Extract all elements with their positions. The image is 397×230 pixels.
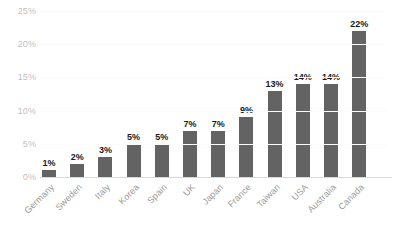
gridline xyxy=(40,144,389,145)
bar-uk[interactable]: 7% xyxy=(183,131,197,177)
y-tick-label: 10% xyxy=(18,106,36,116)
y-axis: 0%5%10%15%20%25% xyxy=(0,0,40,178)
bar-rect xyxy=(127,144,141,177)
bar-rect xyxy=(183,131,197,177)
bar-sweden[interactable]: 2% xyxy=(70,164,84,177)
bar-japan[interactable]: 7% xyxy=(211,131,225,177)
x-tick-label-canada: Canada xyxy=(336,182,366,212)
y-tick-label: 25% xyxy=(18,6,36,16)
x-tick-label-korea: Korea xyxy=(116,182,140,206)
bar-germany[interactable]: 1% xyxy=(42,170,56,177)
bar-value-label: 22% xyxy=(350,19,368,29)
bar-korea[interactable]: 5% xyxy=(127,144,141,177)
bar-value-label: 5% xyxy=(127,132,140,142)
bar-italy[interactable]: 3% xyxy=(98,157,112,177)
y-tick-label: 5% xyxy=(23,139,36,149)
bar-value-label: 5% xyxy=(155,132,168,142)
bar-value-label: 13% xyxy=(266,79,284,89)
x-tick-label-italy: Italy xyxy=(93,182,112,201)
bar-usa[interactable]: 14% xyxy=(296,84,310,177)
bar-rect xyxy=(352,31,366,177)
bar-spain[interactable]: 5% xyxy=(155,144,169,177)
bar-rect xyxy=(98,157,112,177)
bar-rect xyxy=(70,164,84,177)
plot-area: 1%2%3%5%5%7%7%9%13%14%14%22% xyxy=(40,0,397,178)
bar-value-label: 7% xyxy=(183,119,196,129)
bar-chart: 0%5%10%15%20%25% 1%2%3%5%5%7%7%9%13%14%1… xyxy=(0,0,397,230)
bar-taiwan[interactable]: 13% xyxy=(268,91,282,177)
bar-value-label: 3% xyxy=(99,145,112,155)
bar-rect xyxy=(239,117,253,177)
bar-value-label: 2% xyxy=(71,152,84,162)
bar-value-label: 1% xyxy=(42,158,55,168)
bar-canada[interactable]: 22% xyxy=(352,31,366,177)
bar-rect xyxy=(211,131,225,177)
gridline xyxy=(40,77,389,78)
gridline xyxy=(40,111,389,112)
bar-rect xyxy=(155,144,169,177)
bar-rect xyxy=(296,84,310,177)
bar-australia[interactable]: 14% xyxy=(324,84,338,177)
x-tick-label-spain: Spain xyxy=(145,182,169,206)
bar-value-label: 7% xyxy=(212,119,225,129)
y-tick-label: 15% xyxy=(18,72,36,82)
bar-france[interactable]: 9% xyxy=(239,117,253,177)
y-tick-label: 0% xyxy=(23,172,36,182)
x-tick-label-france: France xyxy=(226,182,253,209)
gridline xyxy=(40,44,389,45)
bar-rect xyxy=(42,170,56,177)
x-tick-label-germany: Germany xyxy=(22,182,56,216)
x-tick-label-usa: USA xyxy=(289,182,309,202)
x-tick-label-australia: Australia xyxy=(306,182,338,214)
x-axis: GermanySwedenItalyKoreaSpainUKJapanFranc… xyxy=(40,178,397,230)
gridline xyxy=(40,11,389,12)
bar-rect xyxy=(268,91,282,177)
bar-rect xyxy=(324,84,338,177)
bars-layer: 1%2%3%5%5%7%7%9%13%14%14%22% xyxy=(40,0,397,178)
x-tick-label-uk: UK xyxy=(181,182,197,198)
x-tick-label-taiwan: Taiwan xyxy=(254,182,281,209)
y-tick-label: 20% xyxy=(18,39,36,49)
x-tick-label-japan: Japan xyxy=(200,182,225,207)
x-tick-label-sweden: Sweden xyxy=(54,182,84,212)
